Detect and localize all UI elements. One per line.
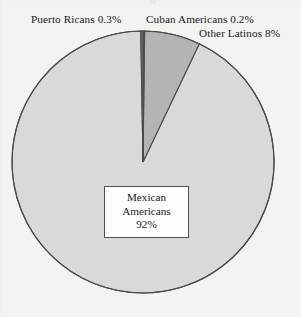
slice-label-other-latinos: Other Latinos 8%	[199, 27, 280, 40]
slice-label-puerto-ricans: Puerto Ricans 0.3%	[31, 13, 121, 26]
slice-label-mexican-americans-line1: Mexican	[108, 191, 185, 205]
pie-chart-figure: Puerto Ricans 0.3% Cuban Americans 0.2% …	[0, 0, 301, 317]
pie-chart-graphic	[0, 0, 301, 317]
slice-label-cuban-americans: Cuban Americans 0.2%	[146, 13, 254, 26]
slice-label-mexican-americans: Mexican Americans 92%	[104, 186, 189, 238]
slice-label-mexican-americans-line3: 92%	[108, 218, 185, 232]
slice-label-mexican-americans-line2: Americans	[108, 205, 185, 219]
